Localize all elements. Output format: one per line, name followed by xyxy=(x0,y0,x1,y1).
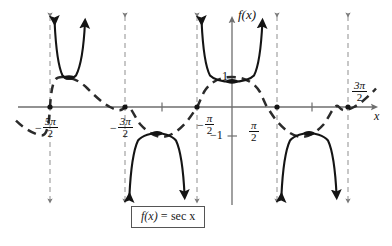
x-tick-label-neg-3pi-over-2: −3π2 xyxy=(110,116,133,140)
point-pi-over-2 xyxy=(274,104,279,109)
minus-sign: − xyxy=(197,119,205,131)
fraction-denominator: 2 xyxy=(205,124,215,136)
point-neg-pi-over-2 xyxy=(194,104,199,109)
secant-branch-down-right xyxy=(281,133,336,196)
fraction: 3π2 xyxy=(118,116,133,140)
fraction-denominator: 2 xyxy=(43,127,58,139)
caption-lhs: f(x) xyxy=(141,209,158,223)
minus-sign: − xyxy=(35,122,43,134)
fraction-denominator: 2 xyxy=(249,131,259,143)
fraction-numerator: π xyxy=(205,113,215,124)
secant-branch-down-left xyxy=(129,133,184,196)
fraction: π2 xyxy=(249,120,259,144)
caption-rhs: sec x xyxy=(171,209,195,223)
function-axis-label: f(x) xyxy=(238,8,256,21)
fraction-numerator: 5π xyxy=(43,116,58,127)
x-tick-label-pi-over-2: π2 xyxy=(249,120,259,144)
asymptote-group xyxy=(50,16,348,202)
point-3pi-over-2 xyxy=(345,104,350,109)
fraction: π2 xyxy=(205,113,215,137)
minus-sign: − xyxy=(110,122,118,134)
vertex-neg-pi xyxy=(151,131,162,136)
fraction-numerator: 3π xyxy=(352,80,367,91)
x-axis-label: x xyxy=(374,110,379,122)
x-tick-label-3pi-over-2: 3π2 xyxy=(352,80,367,104)
y-tick-label-one: 1 xyxy=(222,70,228,82)
caption-box: f(x) = sec x xyxy=(131,206,205,228)
fraction-denominator: 2 xyxy=(118,127,133,139)
vertex-pi xyxy=(303,131,314,136)
secant-function-figure: f(x) x 1 −1 −5π2 −3π2 −π2 π2 3π2 f(x) = … xyxy=(0,0,392,246)
point-neg-3pi-over-2 xyxy=(122,104,127,109)
fraction-denominator: 2 xyxy=(352,91,367,103)
caption-equals: = xyxy=(161,209,168,223)
fraction-numerator: 3π xyxy=(118,116,133,127)
x-tick-label-neg-5pi-over-2: −5π2 xyxy=(35,116,58,140)
vertex-neg-2pi xyxy=(64,75,74,80)
secant-branch-up-left xyxy=(55,22,85,79)
x-tick-label-neg-pi-over-2: −π2 xyxy=(197,113,214,137)
fraction: 3π2 xyxy=(352,80,367,104)
point-neg-5pi-over-2 xyxy=(47,104,52,109)
fraction-numerator: π xyxy=(249,120,259,131)
fraction: 5π2 xyxy=(43,116,58,140)
